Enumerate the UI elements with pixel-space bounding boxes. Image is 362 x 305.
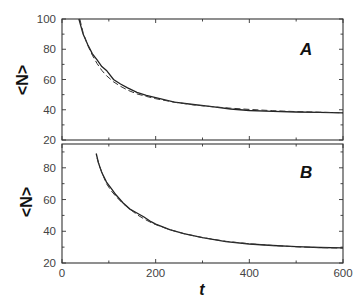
panel-a-y-tick-label: 60: [43, 74, 56, 86]
panel-b-x-tick-label: 0: [59, 267, 65, 279]
panel-b-y-tick-label: 40: [43, 225, 56, 237]
panel-a-y-axis-label: <N>: [14, 65, 31, 95]
panel-b-x-tick-label: 600: [333, 267, 352, 279]
x-axis-label: t: [199, 281, 205, 298]
panel-b-frame: [62, 144, 343, 263]
panel-a-frame: [62, 19, 343, 140]
panel-b-y-tick-label: 20: [43, 257, 56, 269]
panel-a-label: A: [299, 40, 312, 59]
panel-b-y-tick-label: 60: [43, 194, 56, 206]
panel-a-plot-area: 20406080100: [37, 13, 343, 146]
panel-a-y-tick-label: 100: [37, 13, 56, 25]
panel-b-x-tick-label: 400: [240, 267, 259, 279]
panel-a: 20406080100 A <N>: [14, 13, 343, 146]
panel-b-y-axis-label: <N>: [18, 187, 35, 217]
panel-a-y-tick-label: 40: [43, 104, 56, 116]
panel-b-y-tick-label: 80: [43, 162, 56, 174]
panel-b: 204060800200400600 B <N> t: [18, 144, 353, 298]
panel-a-y-tick-label: 20: [43, 134, 56, 146]
panel-a-series-simulation: [79, 19, 343, 113]
panel-a-series-fit: [80, 19, 343, 113]
panel-a-y-tick-label: 80: [43, 43, 56, 55]
panel-b-label: B: [300, 163, 312, 182]
panel-b-x-tick-label: 200: [146, 267, 165, 279]
chart-figure: 20406080100 A <N> 204060800200400600 B <…: [0, 0, 362, 305]
